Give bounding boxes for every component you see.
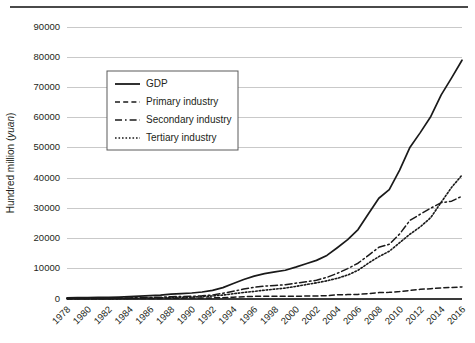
x-tick-label: 2010 <box>382 304 405 327</box>
legend-label-secondary-industry: Secondary industry <box>146 114 232 125</box>
x-tick-label: 2008 <box>362 304 385 327</box>
y-tick-label: 40000 <box>34 172 60 183</box>
y-tick-label: 30000 <box>34 202 60 213</box>
x-tick-label: 2012 <box>403 304 426 327</box>
chart-svg: 0100002000030000400005000060000700008000… <box>0 0 475 343</box>
y-axis-tick-labels: 0100002000030000400005000060000700008000… <box>34 21 60 304</box>
x-tick-label: 1980 <box>70 304 93 327</box>
y-tick-label: 10000 <box>34 262 60 273</box>
x-axis-tick-labels: 1978198019821984198619881990199219941996… <box>50 304 468 327</box>
y-tick-label: 60000 <box>34 111 60 122</box>
y-axis-title: Hundred million (yuan) <box>5 113 16 214</box>
figure-container: 0100002000030000400005000060000700008000… <box>0 0 475 343</box>
legend-label-tertiary-industry: Tertiary industry <box>146 132 217 143</box>
x-tick-label: 2000 <box>278 304 301 327</box>
x-tick-label: 2014 <box>424 304 447 327</box>
x-tick-label: 1988 <box>154 304 177 327</box>
x-tick-label: 1978 <box>50 304 73 327</box>
legend-label-gdp: GDP <box>146 78 168 89</box>
x-tick-label: 2006 <box>341 304 364 327</box>
x-tick-label: 1986 <box>133 304 156 327</box>
y-tick-label: 0 <box>55 293 60 304</box>
x-tick-label: 1990 <box>174 304 197 327</box>
y-axis-title-text: Hundred million (yuan) <box>5 113 16 214</box>
series-line-tertiary-industry <box>67 175 462 299</box>
y-tick-label: 70000 <box>34 81 60 92</box>
x-tick-label: 1994 <box>216 304 239 327</box>
line-chart: 0100002000030000400005000060000700008000… <box>0 0 475 343</box>
series-line-secondary-industry <box>67 196 462 298</box>
x-tick-label: 2002 <box>299 304 322 327</box>
x-tick-label: 1982 <box>91 304 114 327</box>
legend-label-primary-industry: Primary industry <box>146 96 218 107</box>
x-tick-label: 1984 <box>112 304 135 327</box>
x-tick-label: 1996 <box>237 304 260 327</box>
y-tick-label: 20000 <box>34 232 60 243</box>
y-tick-label: 80000 <box>34 51 60 62</box>
chart-legend: GDPPrimary industrySecondary industryTer… <box>107 71 238 150</box>
x-tick-label: 1998 <box>258 304 281 327</box>
x-tick-label: 2004 <box>320 304 343 327</box>
y-tick-label: 50000 <box>34 141 60 152</box>
y-tick-label: 90000 <box>34 21 60 32</box>
x-tick-label: 2016 <box>445 304 468 327</box>
x-tick-label: 1992 <box>195 304 218 327</box>
